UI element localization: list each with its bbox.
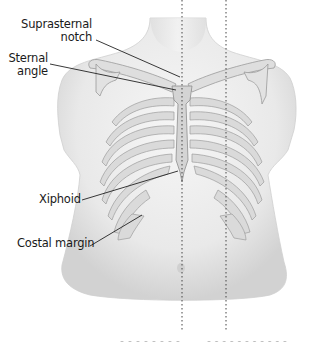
label-sternal-angle: Sternal angle <box>0 52 48 78</box>
label-line: notch <box>12 31 92 44</box>
label-costal-margin: Costal margin <box>17 237 94 250</box>
label-line: angle <box>0 65 48 78</box>
label-suprasternal-notch: Suprasternal notch <box>12 18 92 44</box>
clipped-caption <box>120 336 300 342</box>
navel <box>177 263 185 273</box>
label-xiphoid: Xiphoid <box>39 193 81 206</box>
